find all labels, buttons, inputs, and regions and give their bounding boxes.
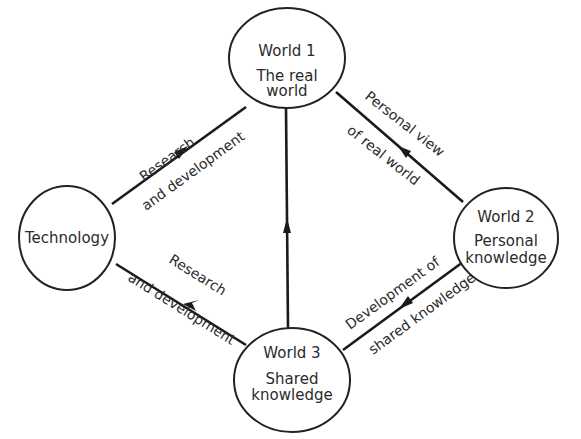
edge-world2-to-world1: Personal view of real world [336,88,463,202]
node-world3: World 3 Shared knowledge [234,328,350,432]
node-subtitle-line2: knowledge [251,386,332,404]
node-title: World 1 [258,42,315,60]
node-technology: Technology [19,186,115,290]
node-subtitle-line1: Personal [474,232,538,250]
node-world1: World 1 The real world [229,8,345,108]
edge-technology-to-world1: Research and development [112,107,248,213]
node-title: World 2 [477,208,534,226]
arrowhead-icon [399,296,413,309]
three-worlds-diagram: Research and development Research and de… [0,0,581,439]
node-title: World 3 [263,344,320,362]
edge-world3-to-world1 [283,108,291,328]
edge-label-development-of: Development of [342,253,443,333]
node-title: Technology [24,229,109,247]
node-world2: World 2 Personal knowledge [454,188,558,288]
node-subtitle-line2: world [266,82,307,100]
edge-world2-to-world3: Development of shared knowledge [342,253,478,358]
node-subtitle-line2: knowledge [465,249,546,267]
arrowhead-icon [283,218,291,233]
edge-label-research: Research [166,251,229,299]
edge-world3-to-technology: Research and development [116,251,246,348]
edge-label-shared-knowledge: shared knowledge [365,269,478,357]
